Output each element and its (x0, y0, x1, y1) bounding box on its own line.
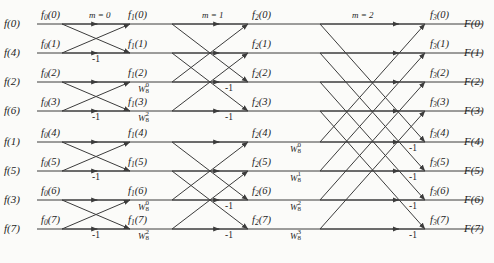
minus-one-s1-row-3: -1 (225, 112, 233, 122)
node-label-c2-0: f2(0) (252, 9, 271, 22)
node-label-c0-6: f0(6) (41, 185, 60, 198)
node-label-c2-2: f2(2) (252, 67, 271, 80)
node-label-c3-2: f3(2) (430, 67, 449, 80)
node-label-c0-3: f0(3) (41, 96, 60, 109)
node-label-c3-4: f3(4) (430, 127, 449, 140)
input-label-1: f(4) (4, 46, 20, 58)
minus-one-s2-row-4: -1 (409, 143, 417, 153)
minus-one-s1-row-6: -1 (225, 201, 233, 211)
twiddle-s1-row-7: W28 (138, 231, 153, 242)
node-label-c2-4: f2(4) (252, 127, 271, 140)
node-label-c0-1: f0(1) (41, 38, 60, 51)
stage-label-2: m = 2 (352, 10, 374, 20)
minus-one-s2-row-6: -1 (409, 201, 417, 211)
node-label-c3-6: f3(6) (430, 185, 449, 198)
input-label-0: f(0) (4, 17, 20, 29)
node-label-c1-3: f1(3) (128, 96, 147, 109)
twiddle-s2-row-5: W18 (290, 173, 305, 184)
minus-one-s2-row-7: -1 (409, 230, 417, 240)
output-label-4: F(4) (464, 135, 484, 147)
node-label-c1-1: f1(1) (128, 38, 147, 51)
node-label-c0-2: f0(2) (41, 67, 60, 80)
node-label-c3-0: f3(0) (430, 9, 449, 22)
node-label-c1-6: f1(6) (128, 185, 147, 198)
output-label-5: F(5) (464, 164, 484, 176)
twiddle-s2-row-6: W28 (290, 202, 305, 213)
output-label-7: F(7) (464, 222, 484, 234)
node-label-c1-7: f1(7) (128, 214, 147, 227)
node-label-c1-4: f1(4) (128, 127, 147, 140)
node-label-c3-3: f3(3) (430, 96, 449, 109)
node-label-c2-7: f2(7) (252, 214, 271, 227)
node-label-c2-3: f2(3) (252, 96, 271, 109)
twiddle-s2-row-7: W38 (290, 231, 305, 242)
minus-one-s2-row-5: -1 (409, 172, 417, 182)
node-label-c1-0: f1(0) (128, 9, 147, 22)
output-label-0: F(0) (464, 17, 484, 29)
input-label-5: f(5) (4, 164, 20, 176)
twiddle-s1-row-2: W08 (138, 84, 153, 95)
minus-one-s0-row-3: -1 (92, 112, 100, 122)
signal-flow-graph (0, 0, 494, 263)
node-label-c0-0: f0(0) (41, 9, 60, 22)
input-label-6: f(3) (4, 193, 20, 205)
input-label-7: f(7) (4, 222, 20, 234)
output-label-6: F(6) (464, 193, 484, 205)
output-label-2: F(2) (464, 75, 484, 87)
node-label-c0-5: f0(5) (41, 156, 60, 169)
node-label-c0-7: f0(7) (41, 214, 60, 227)
node-label-c3-5: f3(5) (430, 156, 449, 169)
node-label-c1-2: f1(2) (128, 67, 147, 80)
node-label-c0-4: f0(4) (41, 127, 60, 140)
twiddle-s1-row-3: W28 (138, 113, 153, 124)
minus-one-s0-row-5: -1 (92, 172, 100, 182)
node-label-c2-6: f2(6) (252, 185, 271, 198)
fft-butterfly-diagram: f(0)f(4)f(2)f(6)f(1)f(5)f(3)f(7)F(0)F(1)… (0, 0, 494, 263)
minus-one-s0-row-1: -1 (92, 54, 100, 64)
node-label-c1-5: f1(5) (128, 156, 147, 169)
input-label-3: f(6) (4, 104, 20, 116)
input-label-2: f(2) (4, 75, 20, 87)
minus-one-s1-row-2: -1 (225, 83, 233, 93)
twiddle-s2-row-4: W08 (290, 144, 305, 155)
node-label-c2-1: f2(1) (252, 38, 271, 51)
node-label-c2-5: f2(5) (252, 156, 271, 169)
output-label-3: F(3) (464, 104, 484, 116)
output-label-1: F(1) (464, 46, 484, 58)
stage-label-1: m = 1 (202, 10, 224, 20)
minus-one-s1-row-7: -1 (225, 230, 233, 240)
node-label-c3-7: f3(7) (430, 214, 449, 227)
stage-label-0: m = 0 (89, 10, 111, 20)
input-label-4: f(1) (4, 135, 20, 147)
node-label-c3-1: f3(1) (430, 38, 449, 51)
twiddle-s1-row-6: W08 (138, 202, 153, 213)
minus-one-s0-row-7: -1 (92, 230, 100, 240)
